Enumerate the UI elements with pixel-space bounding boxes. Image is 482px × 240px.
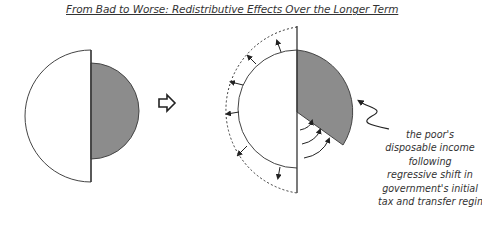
outward-arrow (277, 41, 281, 52)
outward-arrow (248, 56, 256, 64)
after-white-half-circle (238, 50, 297, 168)
right-arrow-icon (159, 95, 175, 111)
outward-arrow (278, 167, 280, 178)
after-figure (226, 26, 389, 193)
outward-arrow (231, 82, 243, 85)
curved-shift-arrow (302, 130, 320, 144)
before-figure (25, 50, 139, 182)
caption-line: following (378, 155, 482, 168)
caption-pointer-arrow (359, 101, 389, 129)
after-grey-wedge (297, 50, 353, 145)
caption-line: government's initial (378, 182, 482, 195)
before-grey-half-circle (91, 63, 139, 159)
caption-line: regressive shift in (378, 168, 482, 181)
caption-line: the poor's (378, 128, 482, 141)
curved-shift-arrow (300, 121, 312, 130)
caption-line: disposable income (378, 141, 482, 154)
caption-line: tax and transfer regime (378, 195, 482, 208)
before-white-half-circle (25, 50, 91, 182)
outward-arrow (238, 146, 247, 155)
caption-text: the poor's disposable income following r… (378, 128, 482, 208)
outward-arrow (227, 112, 239, 114)
